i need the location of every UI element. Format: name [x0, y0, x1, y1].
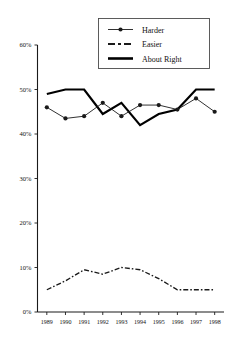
y-tick-labels: 0%10%20%30%40%50%60% [20, 41, 33, 315]
y-axis [35, 45, 38, 312]
x-tick-label: 1991 [78, 319, 90, 325]
data-point-marker [138, 103, 142, 107]
x-tick-label: 1989 [41, 319, 53, 325]
x-tick-label: 1995 [153, 319, 165, 325]
series-markers-harder [45, 96, 217, 120]
x-tick-label: 1997 [190, 319, 202, 325]
y-tick-label: 10% [20, 264, 33, 271]
data-point-marker [194, 96, 198, 100]
plot-series [45, 90, 217, 290]
y-tick-label: 40% [20, 130, 33, 137]
legend: Harder Easier About Right [99, 19, 210, 69]
y-tick-label: 30% [20, 175, 33, 182]
y-tick-label: 50% [20, 86, 33, 93]
y-tick-label: 0% [23, 308, 32, 315]
series-line-easier [47, 268, 215, 290]
x-tick-labels: 1989199019911992199319941995199619971998 [41, 319, 221, 325]
data-point-marker [213, 110, 217, 114]
x-tick-label: 1998 [209, 319, 221, 325]
x-tick-label: 1994 [134, 319, 146, 325]
x-tick-label: 1992 [97, 319, 109, 325]
legend-label-harder: Harder [142, 26, 165, 35]
line-marker-swatch-dot-icon [118, 27, 122, 31]
x-tick-label: 1993 [115, 319, 127, 325]
data-point-marker [45, 105, 49, 109]
series-line-about-right [47, 90, 215, 126]
data-point-marker [101, 101, 105, 105]
line-chart: 0%10%20%30%40%50%60% 1989199019911992199… [0, 0, 228, 352]
data-point-marker [119, 114, 123, 118]
chart-canvas: 0%10%20%30%40%50%60% 1989199019911992199… [0, 0, 228, 352]
legend-label-easier: Easier [142, 40, 162, 49]
data-point-marker [175, 107, 179, 111]
data-point-marker [157, 103, 161, 107]
x-axis [38, 312, 225, 315]
y-tick-label: 20% [20, 219, 33, 226]
legend-label-about-right: About Right [142, 55, 183, 64]
y-tick-label: 60% [20, 41, 33, 48]
data-point-marker [82, 114, 86, 118]
x-tick-label: 1996 [171, 319, 183, 325]
x-tick-label: 1990 [59, 319, 71, 325]
data-point-marker [63, 116, 67, 120]
